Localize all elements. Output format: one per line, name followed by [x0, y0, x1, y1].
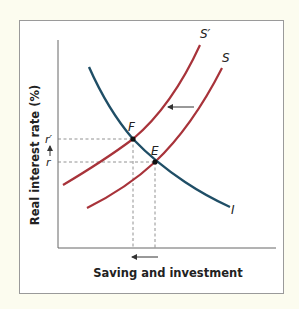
saving-curve-s-prime: [63, 45, 200, 185]
chart-canvas: S′ S I F E r′ r Saving and investment Re…: [0, 0, 299, 309]
x-axis-label: Saving and investment: [93, 266, 243, 280]
tick-r-prime: r′: [45, 133, 53, 146]
label-e: E: [151, 144, 159, 158]
tick-r: r: [46, 156, 52, 169]
label-s-prime: S′: [200, 27, 211, 41]
label-i: I: [231, 203, 235, 217]
saving-curve-s: [87, 68, 222, 208]
label-s: S: [222, 51, 230, 65]
guide-lines: [58, 139, 155, 248]
point-f-marker: [130, 136, 135, 141]
investment-curve-i: [89, 67, 230, 207]
label-f: F: [128, 120, 136, 134]
point-e-marker: [152, 159, 157, 164]
y-axis-label: Real interest rate (%): [28, 85, 42, 225]
